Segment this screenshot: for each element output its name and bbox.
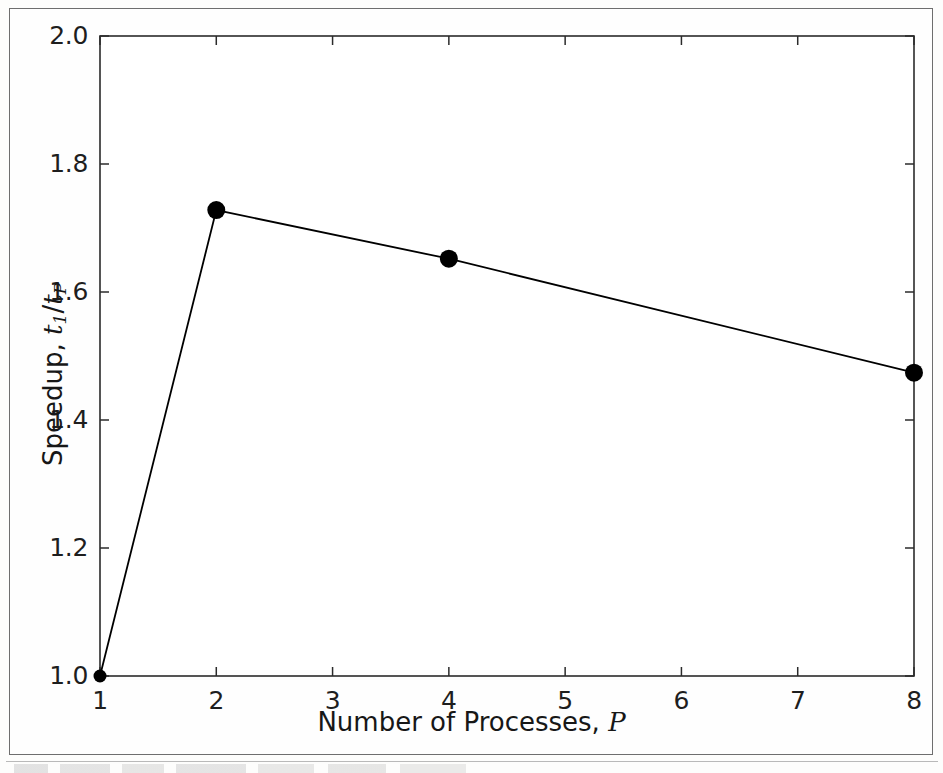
y-axis-denominator-subscript: P (50, 283, 70, 295)
y-axis-title: Speedup, t1/tP (38, 94, 71, 654)
y-axis-denominator-variable: t (38, 294, 68, 304)
y-axis-title-text: Speedup, (38, 343, 68, 466)
x-axis-title-text: Number of Processes, (317, 707, 599, 737)
y-axis-numerator-subscript: 1 (50, 314, 70, 325)
plot-area-border (100, 36, 914, 676)
caption-text-ghost (14, 764, 714, 773)
data-point-marker (207, 201, 225, 219)
page-rule (6, 761, 938, 762)
x-axis-title: Number of Processes, P (0, 707, 943, 737)
y-axis-ratio-slash: / (38, 305, 68, 314)
y-axis-tick-label: 2.0 (10, 21, 88, 50)
data-point-marker (94, 670, 107, 683)
plot-canvas (0, 0, 943, 773)
x-axis-title-variable: P (608, 707, 626, 737)
data-point-marker (905, 364, 923, 382)
data-point-marker (440, 250, 458, 268)
scanned-page: 1.01.21.41.61.82.0 12345678 Number of Pr… (0, 0, 943, 773)
y-axis-numerator-variable: t (38, 325, 68, 335)
speedup-line-chart: 1.01.21.41.61.82.0 12345678 Number of Pr… (0, 0, 943, 773)
